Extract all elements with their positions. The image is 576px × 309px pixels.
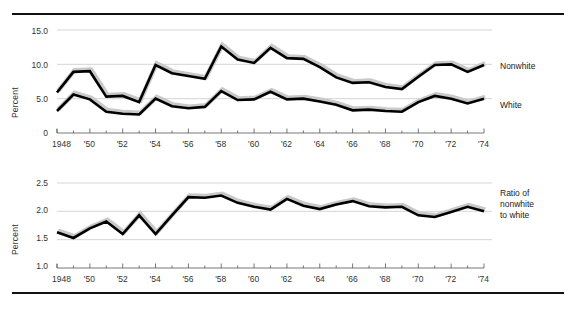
xtick-label-1966: '66 (347, 139, 358, 149)
xtick-label-1970: '70 (412, 274, 423, 284)
bottom-rule (12, 292, 564, 294)
unemployment-ratio-chart: Percent 2.5 2.0 1.5 1.0 Ratio of nonwhit… (0, 175, 576, 275)
xtick-label-1958: '58 (215, 139, 226, 149)
series-label-nonwhite: Nonwhite (500, 61, 535, 72)
xtick-label-1962: '62 (281, 274, 292, 284)
series-label-ratio-line1: Ratio of (500, 188, 529, 198)
xtick-label-1952: '52 (117, 274, 128, 284)
top-ytick-5: 5.0 (18, 94, 48, 104)
top-ytick-15: 15.0 (18, 26, 48, 36)
unemployment-rate-chart: Percent 15.0 10.0 5.0 0 Nonwhite White 1… (0, 22, 576, 142)
bottom-ytick-10: 1.0 (18, 261, 48, 271)
xtick-label-1960: '60 (248, 274, 259, 284)
series-label-ratio: Ratio of nonwhite to white (500, 188, 534, 221)
series-line-0 (57, 195, 484, 238)
xtick-label-1952: '52 (117, 139, 128, 149)
series-label-ratio-line2: nonwhite (500, 199, 534, 209)
bottom-ytick-15: 1.5 (18, 233, 48, 243)
xtick-label-1968: '68 (379, 274, 390, 284)
xtick-label-1972: '72 (445, 274, 456, 284)
xtick-label-1948: 1948 (52, 274, 71, 284)
xtick-label-1954: '54 (150, 139, 161, 149)
series-label-white: White (500, 100, 522, 111)
figure-root: Percent 15.0 10.0 5.0 0 Nonwhite White 1… (0, 0, 576, 309)
series-label-ratio-line3: to white (500, 210, 529, 220)
xtick-label-1948: 1948 (52, 139, 71, 149)
bottom-ytick-25: 2.5 (18, 178, 48, 188)
top-rule (12, 13, 564, 15)
xtick-label-1970: '70 (412, 139, 423, 149)
bottom-chart-plot (0, 175, 576, 275)
bottom-ytick-20: 2.0 (18, 205, 48, 215)
xtick-label-1968: '68 (379, 139, 390, 149)
xtick-label-1956: '56 (182, 274, 193, 284)
xtick-label-1962: '62 (281, 139, 292, 149)
xtick-label-1960: '60 (248, 139, 259, 149)
top-ytick-0: 0 (18, 128, 48, 138)
xtick-label-1950: '50 (84, 274, 95, 284)
xtick-label-1950: '50 (84, 139, 95, 149)
xtick-label-1964: '64 (314, 139, 325, 149)
xtick-label-1954: '54 (150, 274, 161, 284)
xtick-label-1966: '66 (347, 274, 358, 284)
xtick-label-1972: '72 (445, 139, 456, 149)
xtick-label-1958: '58 (215, 274, 226, 284)
top-chart-plot (0, 22, 576, 142)
xtick-label-1974: '74 (478, 139, 489, 149)
xtick-label-1956: '56 (182, 139, 193, 149)
xtick-label-1974: '74 (478, 274, 489, 284)
top-ytick-10: 10.0 (18, 60, 48, 70)
xtick-label-1964: '64 (314, 274, 325, 284)
